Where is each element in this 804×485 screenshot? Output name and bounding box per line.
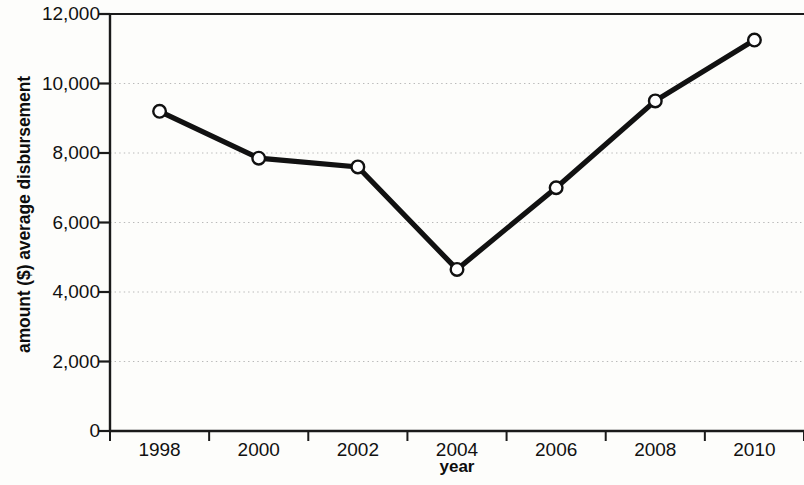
line-chart: amount ($) average disbursement year 02,… [0, 0, 804, 485]
y-axis-ticks [99, 14, 110, 431]
data-markers [153, 34, 760, 276]
data-point-marker [352, 161, 365, 174]
gridlines [110, 84, 804, 362]
plot-area [0, 0, 804, 485]
x-axis-ticks [110, 431, 804, 441]
data-line [160, 40, 755, 269]
data-point-marker [649, 95, 662, 108]
data-point-marker [748, 34, 761, 47]
data-point-marker [252, 152, 265, 165]
data-point-marker [451, 263, 464, 276]
data-point-marker [550, 181, 563, 194]
series-line [160, 40, 755, 269]
data-point-marker [153, 105, 166, 118]
